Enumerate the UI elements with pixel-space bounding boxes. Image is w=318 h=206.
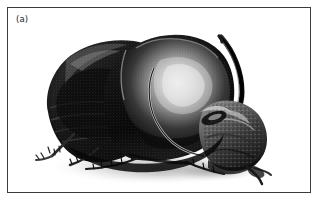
figure-root: (a) bbox=[0, 0, 318, 206]
beetle-photograph bbox=[8, 8, 310, 192]
panel-label: (a) bbox=[16, 14, 28, 24]
figure-panel: (a) bbox=[7, 7, 311, 193]
photo-grain bbox=[8, 8, 310, 192]
beetle-photograph-graphic bbox=[8, 8, 310, 192]
